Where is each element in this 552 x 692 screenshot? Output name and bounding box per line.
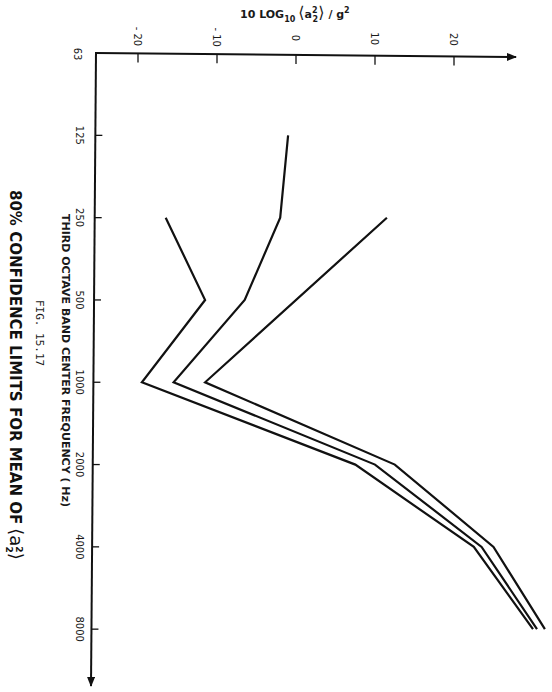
frequency-tick-label: 8000 <box>74 616 85 641</box>
level-axis <box>96 53 516 57</box>
frequency-tick-label: 2000 <box>74 452 85 477</box>
frequency-tick-label: 250 <box>74 208 85 227</box>
frequency-tick-label: 500 <box>74 290 85 309</box>
frequency-tick-label: 1000 <box>74 370 85 395</box>
frequency-axis-title: THIRD OCTAVE BAND CENTER FREQUENCY ( Hz) <box>59 214 72 507</box>
level-tick-label: - 10 <box>211 27 222 47</box>
level-ticks: - 20- 1001020 <box>132 27 459 66</box>
frequency-tick-label: 125 <box>74 126 85 145</box>
frequency-ticks: 631252505001000200040008000 <box>72 48 102 642</box>
upper-limit-curve <box>205 218 545 630</box>
level-axis-title: 10 LOG10⟨a22⟩/ g2 <box>240 3 350 24</box>
confidence-limits-chart: - 20- 1001020 63125250500100020004000800… <box>0 0 552 692</box>
level-tick-label: - 20 <box>132 27 143 47</box>
mean-curve <box>174 135 537 629</box>
level-tick-label: 0 <box>290 35 301 41</box>
figure-label: FIG. 15.17 <box>33 300 46 366</box>
frequency-axis <box>91 52 96 686</box>
chart-title: 80% CONFIDENCE LIMITS FOR MEAN OF⟨a22⟩ <box>4 190 27 560</box>
level-tick-label: 20 <box>448 33 459 46</box>
curves <box>142 135 545 629</box>
lower-limit-curve <box>142 218 533 630</box>
frequency-tick-label: 4000 <box>74 534 85 559</box>
frequency-tick-label: 63 <box>72 48 83 61</box>
level-tick-label: 10 <box>369 32 380 45</box>
